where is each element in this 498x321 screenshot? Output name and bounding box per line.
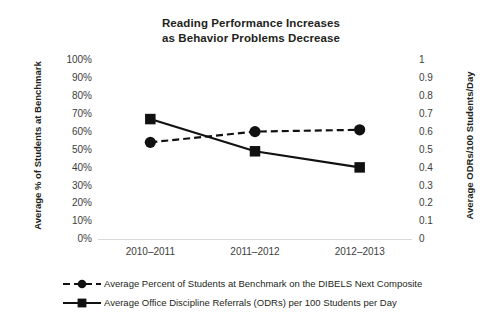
data-point-square bbox=[250, 146, 261, 157]
legend-dashed-circle-marker-icon bbox=[62, 277, 102, 291]
legend-item-odr: Average Office Discipline Referrals (ODR… bbox=[62, 293, 482, 312]
y-right-tick-02: 0.2 bbox=[419, 197, 459, 209]
y-right-tick-0: 0 bbox=[419, 233, 459, 245]
plot-area bbox=[98, 60, 412, 239]
y-right-tick-03: 0.3 bbox=[419, 180, 459, 192]
x-tick-2011-2012: 2011–2012 bbox=[203, 246, 308, 262]
legend-item-dibels: Average Percent of Students at Benchmark… bbox=[62, 274, 482, 293]
legend-label-dibels: Average Percent of Students at Benchmark… bbox=[102, 278, 422, 289]
chart-container: Reading Performance Increases as Behavio… bbox=[0, 0, 498, 321]
data-point-square bbox=[354, 162, 365, 173]
x-axis-ticks: 2010–2011 2011–2012 2012–2013 bbox=[98, 246, 412, 262]
y-right-tick-1: 1 bbox=[419, 54, 459, 66]
y-left-tick-80: 80% bbox=[46, 90, 92, 102]
chart-title: Reading Performance Increases as Behavio… bbox=[120, 16, 382, 46]
y-left-tick-90: 90% bbox=[46, 72, 92, 84]
y-left-tick-100: 100% bbox=[46, 54, 92, 66]
y-axis-right-title: Average ODRs/100 Students/Day bbox=[464, 46, 475, 246]
series-plot bbox=[98, 60, 412, 239]
y-right-tick-05: 0.5 bbox=[419, 144, 459, 156]
data-point-circle bbox=[354, 124, 365, 135]
y-right-tick-09: 0.9 bbox=[419, 72, 459, 84]
y-left-tick-10: 10% bbox=[46, 215, 92, 227]
data-point-circle bbox=[145, 137, 156, 148]
y-right-tick-08: 0.8 bbox=[419, 90, 459, 102]
y-left-tick-70: 70% bbox=[46, 108, 92, 120]
data-point-square bbox=[145, 114, 156, 125]
x-tick-2010-2011: 2010–2011 bbox=[98, 246, 203, 262]
chart-title-line-2: as Behavior Problems Decrease bbox=[120, 31, 382, 46]
y-right-tick-01: 0.1 bbox=[419, 215, 459, 227]
legend-label-odr: Average Office Discipline Referrals (ODR… bbox=[102, 297, 397, 308]
y-left-tick-20: 20% bbox=[46, 197, 92, 209]
y-right-tick-06: 0.6 bbox=[419, 126, 459, 138]
x-tick-2012-2013: 2012–2013 bbox=[307, 246, 412, 262]
y-left-tick-30: 30% bbox=[46, 180, 92, 192]
y-left-tick-0: 0% bbox=[46, 233, 92, 245]
y-left-tick-40: 40% bbox=[46, 162, 92, 174]
legend-solid-square-marker-icon bbox=[62, 296, 102, 310]
chart-legend: Average Percent of Students at Benchmark… bbox=[62, 274, 482, 312]
y-right-tick-07: 0.7 bbox=[419, 108, 459, 120]
y-left-tick-50: 50% bbox=[46, 144, 92, 156]
y-axis-left-title: Average % of Students at Benchmark bbox=[32, 46, 43, 246]
chart-title-line-1: Reading Performance Increases bbox=[120, 16, 382, 31]
y-left-tick-60: 60% bbox=[46, 126, 92, 138]
y-axis-right-ticks: 1 0.9 0.8 0.7 0.6 0.5 0.4 0.3 0.2 0.1 0 bbox=[419, 0, 459, 321]
data-point-circle bbox=[249, 126, 260, 137]
y-axis-left-ticks: 100% 90% 80% 70% 60% 50% 40% 30% 20% 10%… bbox=[46, 0, 92, 321]
y-right-tick-04: 0.4 bbox=[419, 162, 459, 174]
x-axis-line bbox=[98, 239, 412, 240]
